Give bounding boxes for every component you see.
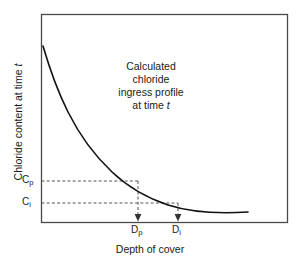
chloride-ingress-figure: Chloride content at time t Depth of cove… xyxy=(0,0,300,269)
y-tick-label-cp: Cp xyxy=(22,174,33,185)
annotation-line-2: chloride xyxy=(95,73,207,86)
annotation-line-4: at time t xyxy=(95,99,207,112)
x-axis-title: Depth of cover xyxy=(0,243,300,255)
y-tick-label-ci: Ci xyxy=(22,196,31,207)
annotation-line-3: ingress profile xyxy=(95,86,207,99)
y-axis-title-text: Chloride content at time xyxy=(12,67,24,181)
x-tick-label-di: Di xyxy=(172,224,181,235)
annotation-line-4-main: at time xyxy=(132,99,166,111)
y-tick-label-cp-sub: p xyxy=(29,178,33,187)
y-tick-label-ci-sub: i xyxy=(29,200,31,209)
annotation-line-4-italic: t xyxy=(167,99,170,111)
plot-frame xyxy=(42,15,288,223)
annotation-line-1: Calculated xyxy=(95,60,207,73)
chart-canvas xyxy=(0,0,300,269)
x-tick-label-dp: Dp xyxy=(131,224,142,235)
y-axis-title-italic: t xyxy=(12,64,24,67)
profile-annotation: Calculated chloride ingress profile at t… xyxy=(95,60,207,112)
x-tick-label-dp-sub: p xyxy=(138,228,142,237)
x-tick-label-di-sub: i xyxy=(179,228,181,237)
